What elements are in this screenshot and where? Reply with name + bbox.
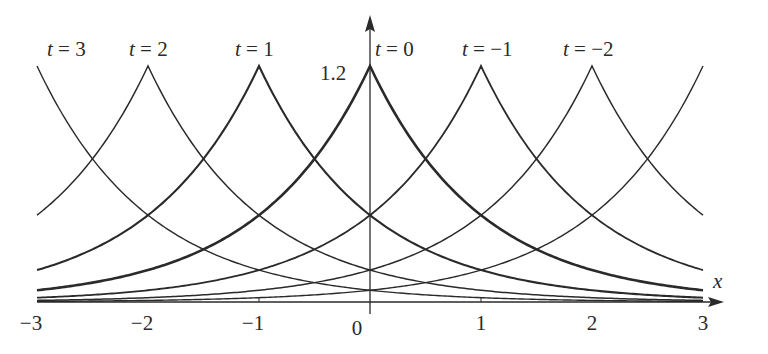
x-tick-label: 0 xyxy=(352,316,363,340)
x-tick-label: −2 xyxy=(131,311,153,335)
x-tick-labels: −3−2−10123 xyxy=(20,311,708,340)
curve-labels: t = 3t = 2t = 1t = 0t = −1t = −2 xyxy=(47,37,614,61)
x-tick-label: −3 xyxy=(20,311,42,335)
x-tick-label: 1 xyxy=(476,311,487,335)
curve-label: t = −2 xyxy=(563,37,614,61)
y-value-label: 1.2 xyxy=(320,61,346,85)
curve-label: t = 0 xyxy=(375,37,414,61)
curve-label: t = −1 xyxy=(462,37,513,61)
x-tick-label: 2 xyxy=(587,311,598,335)
curve-label: t = 3 xyxy=(47,37,86,61)
x-tick-label: −1 xyxy=(242,311,264,335)
curve-label: t = 2 xyxy=(129,37,168,61)
x-tick-label: 3 xyxy=(698,311,709,335)
x-axis-label: x xyxy=(712,269,723,293)
curve-label: t = 1 xyxy=(235,37,274,61)
peakon-plot: −3−2−10123 1.2 x t = 3t = 2t = 1t = 0t =… xyxy=(0,0,768,354)
